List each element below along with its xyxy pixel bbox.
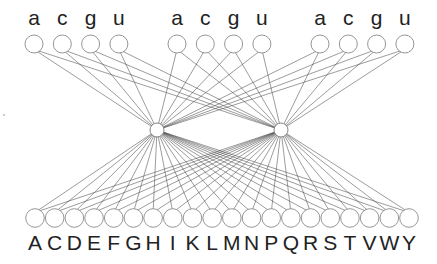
amino-acid-label: E <box>87 231 101 254</box>
network-diagram: acguacguacguACDEFGHIKLMNPQRSTVWY <box>0 0 437 264</box>
nucleotide-label: g <box>228 6 240 29</box>
output-node-Y <box>400 209 419 228</box>
output-node-S <box>321 209 340 228</box>
nucleotide-label: c <box>57 6 68 29</box>
edge <box>281 49 348 130</box>
output-node-K <box>183 209 202 228</box>
edge <box>133 130 281 212</box>
input-node-c-2 <box>196 35 214 53</box>
edge <box>262 49 281 130</box>
nucleotide-label: a <box>28 6 40 29</box>
edge <box>153 130 281 212</box>
nucleotide-label: g <box>371 6 383 29</box>
edge <box>157 49 405 130</box>
amino-acid-label: Y <box>402 231 416 254</box>
stray-dot <box>3 114 5 116</box>
hidden-node-2 <box>274 123 288 137</box>
edge <box>55 130 281 212</box>
edge <box>157 130 409 212</box>
amino-acid-label: Q <box>283 231 299 254</box>
nucleotide-label: c <box>200 6 211 29</box>
input-node-u-3 <box>396 35 414 53</box>
output-node-A <box>26 209 45 228</box>
nucleotide-label: u <box>113 6 125 29</box>
edge <box>74 130 157 212</box>
amino-acid-label: C <box>47 231 62 254</box>
amino-acid-label: A <box>28 231 42 254</box>
nucleotide-label: a <box>314 6 326 29</box>
edge <box>177 49 281 130</box>
amino-acid-label: F <box>107 231 120 254</box>
output-node-H <box>144 209 163 228</box>
amino-acid-label: W <box>379 231 399 254</box>
output-node-D <box>65 209 84 228</box>
edge <box>281 130 370 212</box>
input-node-u-1 <box>110 35 128 53</box>
input-node-a-3 <box>311 35 329 53</box>
edge <box>119 49 157 130</box>
hidden-node-1 <box>150 123 164 137</box>
edge <box>157 130 252 212</box>
nucleotide-label: c <box>343 6 354 29</box>
edge <box>157 49 234 130</box>
amino-acid-label: L <box>206 231 218 254</box>
amino-acid-label: N <box>244 231 259 254</box>
output-node-G <box>124 209 143 228</box>
edge <box>281 130 350 212</box>
output-node-V <box>360 209 379 228</box>
output-node-Q <box>282 209 301 228</box>
network-graph: acguacguacguACDEFGHIKLMNPQRSTVWY <box>0 0 437 264</box>
nucleotide-label: u <box>399 6 411 29</box>
edge <box>192 130 281 212</box>
input-node-g-2 <box>225 35 243 53</box>
nucleotide-label: u <box>256 6 268 29</box>
amino-acid-label: V <box>363 231 377 254</box>
amino-acid-label: P <box>264 231 278 254</box>
output-node-C <box>45 209 64 228</box>
amino-acid-label: G <box>125 231 141 254</box>
edge <box>281 130 409 212</box>
edge <box>281 49 320 130</box>
edge <box>157 130 389 212</box>
input-node-g-1 <box>82 35 100 53</box>
edge <box>281 130 330 212</box>
input-node-u-2 <box>253 35 271 53</box>
amino-acid-label: R <box>303 231 318 254</box>
amino-acid-label: I <box>170 231 176 254</box>
edge <box>94 130 157 212</box>
input-node-c-1 <box>53 35 71 53</box>
input-node-c-3 <box>339 35 357 53</box>
edge <box>157 49 377 130</box>
amino-acid-label: S <box>323 231 337 254</box>
edge <box>281 130 389 212</box>
input-node-a-1 <box>25 35 43 53</box>
edge <box>34 49 281 130</box>
amino-acid-label: T <box>344 231 357 254</box>
output-node-L <box>203 209 222 228</box>
output-node-W <box>380 209 399 228</box>
output-node-F <box>104 209 123 228</box>
input-node-a-2 <box>168 35 186 53</box>
edge <box>157 130 173 212</box>
amino-acid-label: D <box>67 231 82 254</box>
edge <box>157 49 177 130</box>
amino-acid-label: M <box>223 231 241 254</box>
amino-acid-label: K <box>185 231 199 254</box>
edge <box>157 130 311 212</box>
input-node-g-3 <box>368 35 386 53</box>
output-node-P <box>262 209 281 228</box>
edges <box>34 49 409 212</box>
output-node-M <box>223 209 242 228</box>
output-node-T <box>341 209 360 228</box>
output-node-I <box>163 209 182 228</box>
edge <box>157 49 262 130</box>
output-node-R <box>301 209 320 228</box>
edge <box>74 130 281 212</box>
nucleotide-label: a <box>171 6 183 29</box>
edge <box>114 130 157 212</box>
output-node-N <box>242 209 261 228</box>
edge <box>281 130 311 212</box>
nucleotide-label: g <box>85 6 97 29</box>
output-node-E <box>85 209 104 228</box>
amino-acid-label: H <box>146 231 161 254</box>
